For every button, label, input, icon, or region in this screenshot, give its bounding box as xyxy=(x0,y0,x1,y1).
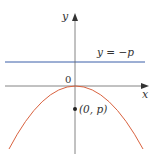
y-axis-arrow-icon xyxy=(72,13,78,21)
x-axis-label: x xyxy=(142,88,149,101)
origin-label: 0 xyxy=(65,74,71,85)
parabola-curve xyxy=(9,86,143,149)
focus-label: (0, p) xyxy=(79,103,107,115)
y-axis-label: y xyxy=(61,10,69,23)
directrix-label: y = −p xyxy=(96,46,134,58)
focus-point xyxy=(73,107,77,111)
parabola-diagram: y x 0 y = −p (0, p) xyxy=(0,0,162,164)
